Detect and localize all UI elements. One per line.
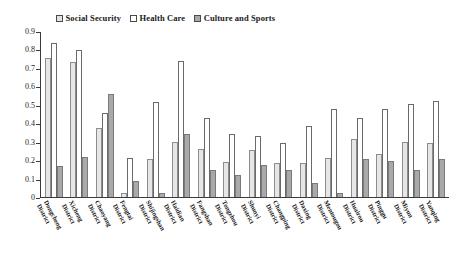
bar	[82, 157, 88, 197]
x-axis-label: DongchengDistrict	[35, 199, 63, 234]
y-tick-label: 0.3	[25, 139, 35, 147]
bar	[414, 170, 420, 197]
y-tick-label: 0.1	[25, 176, 35, 184]
bar-chart: Social Security Health Care Culture and …	[0, 0, 457, 262]
bar	[312, 183, 318, 197]
legend-item-health-care: Health Care	[130, 13, 185, 23]
bar	[331, 109, 337, 197]
bar-group	[41, 32, 67, 197]
y-tick-mark	[36, 161, 40, 162]
bar	[57, 166, 63, 197]
bar	[133, 181, 139, 197]
legend-swatch-icon	[194, 15, 201, 22]
legend-item-social-security: Social Security	[56, 13, 121, 23]
x-axis-label: DaxingDistrict	[290, 199, 313, 225]
y-tick-mark	[36, 180, 40, 181]
x-axis	[40, 197, 449, 198]
bar	[235, 175, 241, 197]
legend-swatch-icon	[56, 15, 63, 22]
legend-swatch-icon	[130, 15, 137, 22]
y-tick-mark	[36, 87, 40, 88]
x-axis-label: MiyunDistrict	[392, 199, 415, 225]
chart-legend: Social Security Health Care Culture and …	[56, 13, 275, 23]
x-axis-label: YanqingDistrict	[418, 199, 442, 227]
x-axis-label: FangshanDistrict	[188, 199, 214, 230]
x-axis-label: HaidianDistrict	[163, 199, 187, 226]
bar-group	[220, 32, 246, 197]
bar	[439, 159, 445, 197]
y-tick-label: 0.4	[25, 120, 35, 128]
bar-group	[398, 32, 424, 197]
y-tick-mark	[36, 124, 40, 125]
legend-label: Social Security	[66, 13, 122, 23]
y-tick-label: 0	[31, 194, 35, 202]
bar-group	[373, 32, 399, 197]
bar	[286, 170, 292, 197]
y-tick-mark	[36, 69, 40, 70]
y-tick-mark	[36, 32, 40, 33]
bar-group	[347, 32, 373, 197]
y-tick-label: 0.7	[25, 65, 35, 73]
y-tick-mark	[36, 143, 40, 144]
x-axis-category-labels: DongchengDistrictXichengDistrictChaoyang…	[41, 199, 449, 261]
bar	[108, 94, 114, 197]
y-tick-label: 0.8	[25, 46, 35, 54]
y-tick-mark	[36, 198, 40, 199]
y-tick-label: 0.6	[25, 83, 35, 91]
bar	[388, 161, 394, 197]
x-axis-label: ChaoyangDistrict	[86, 199, 113, 231]
legend-item-culture-and-sports: Culture and Sports	[194, 13, 275, 23]
bar	[261, 165, 267, 197]
bar	[159, 193, 165, 197]
bar-group	[118, 32, 144, 197]
x-axis-label: MentougouDistrict	[316, 199, 345, 235]
x-axis-label: ShunyiDistrict	[239, 199, 262, 225]
bar-group	[424, 32, 450, 197]
x-axis-label: ChangpingDistrict	[265, 199, 293, 234]
x-axis-label: ShijingshanDistrict	[137, 199, 166, 236]
bar-group	[271, 32, 297, 197]
x-axis-label: FengtaiDistrict	[112, 199, 135, 225]
x-axis-label: PingguDistrict	[367, 199, 390, 225]
y-tick-label: 0.2	[25, 157, 35, 165]
plot-area: 00.10.20.30.40.50.60.70.80.9	[40, 32, 449, 198]
bar-groups	[41, 32, 449, 197]
legend-label: Culture and Sports	[204, 13, 276, 23]
y-tick-mark	[36, 106, 40, 107]
bar	[184, 134, 190, 197]
bar	[153, 102, 159, 197]
bar-group	[169, 32, 195, 197]
bar-group	[92, 32, 118, 197]
bar-group	[322, 32, 348, 197]
legend-label: Health Care	[140, 13, 186, 23]
x-axis-label: TongzhouDistrict	[214, 199, 240, 231]
bar	[337, 193, 343, 197]
y-tick-label: 0.9	[25, 28, 35, 36]
bar-group	[194, 32, 220, 197]
x-axis-label: HuairouDistrict	[341, 199, 366, 227]
y-tick-mark	[36, 50, 40, 51]
bar-group	[245, 32, 271, 197]
bar	[363, 159, 369, 197]
y-tick-label: 0.5	[25, 102, 35, 110]
bar	[210, 170, 216, 197]
x-axis-label: XichengDistrict	[61, 199, 85, 227]
bar-group	[296, 32, 322, 197]
bar-group	[67, 32, 93, 197]
bar-group	[143, 32, 169, 197]
